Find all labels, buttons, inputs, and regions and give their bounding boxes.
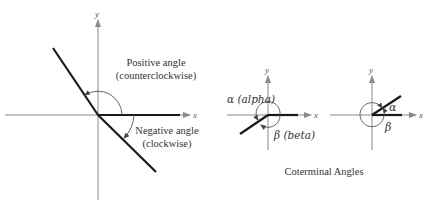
clockwise-label: (clockwise) — [143, 138, 192, 150]
terminal-side-ray — [240, 115, 268, 134]
x-axis-label: x — [313, 110, 318, 120]
clockwise-arc-arrow — [124, 115, 134, 138]
alpha-label: α (alpha) — [227, 93, 275, 105]
right-angle-diagram: x y α β — [330, 65, 423, 150]
beta-label: β (beta) — [273, 129, 315, 141]
x-axis-label: x — [192, 110, 197, 120]
middle-angle-diagram: x y α (alpha) β (beta) — [227, 65, 318, 150]
x-axis-label: x — [418, 110, 423, 120]
figure-canvas: x y Positive angle (counterclockwise) Ne… — [0, 0, 427, 204]
alpha-label: α — [389, 101, 397, 114]
y-axis-label: y — [368, 65, 373, 75]
positive-angle-label: Positive angle — [126, 57, 186, 68]
counterclockwise-label: (counterclockwise) — [116, 70, 197, 82]
y-axis-label: y — [264, 65, 269, 75]
terminal-side-ray — [372, 96, 401, 115]
beta-label: β — [384, 121, 391, 134]
positive-terminal-ray — [53, 48, 98, 115]
coterminal-angles-figure: x y Positive angle (counterclockwise) Ne… — [0, 0, 427, 204]
figure-caption: Coterminal Angles — [284, 166, 363, 177]
negative-angle-label: Negative angle — [135, 125, 199, 136]
left-angle-diagram: x y Positive angle (counterclockwise) Ne… — [5, 9, 199, 200]
y-axis-label: y — [94, 9, 99, 19]
